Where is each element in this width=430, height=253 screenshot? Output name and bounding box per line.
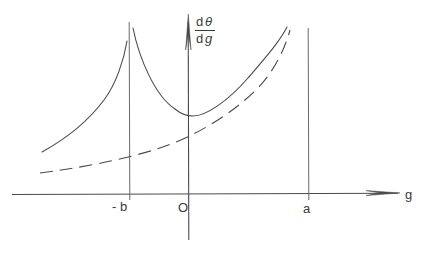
tick-label-origin: O xyxy=(178,200,188,215)
y-axis-label-numerator-theta: θ xyxy=(205,14,212,29)
y-axis-label-denominator-d: d xyxy=(196,31,203,46)
derivative-plot-figure: - b O a g d θ d g xyxy=(0,0,430,253)
y-axis-label-denominator-g: g xyxy=(205,31,213,46)
tick-label-minus-b: - b xyxy=(112,199,127,214)
y-axis-label-fraction: d θ d g xyxy=(195,14,215,46)
asymptote-minus-b xyxy=(129,22,130,200)
vertical-axis-line xyxy=(188,22,189,240)
plot-background xyxy=(0,0,430,253)
x-axis-label: g xyxy=(405,187,412,202)
plot-canvas: - b O a g d θ d g xyxy=(0,0,430,253)
asymptote-a xyxy=(308,28,309,200)
tick-label-a: a xyxy=(303,201,311,216)
y-axis-label-numerator-d: d xyxy=(196,14,203,29)
